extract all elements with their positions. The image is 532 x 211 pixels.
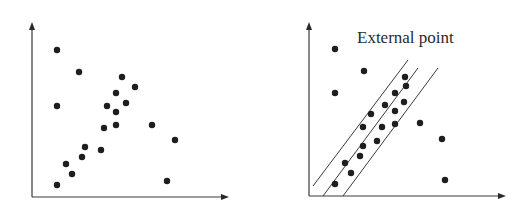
data-point [439,136,445,142]
data-point [98,147,104,153]
y-axis-arrow-icon [306,22,312,30]
scatter-plot-with-fit-band: External point [306,22,506,199]
data-point [417,120,423,126]
data-point [54,182,60,188]
data-point [379,124,385,130]
data-point [149,122,155,128]
x-axis-arrow-icon [221,194,229,200]
data-point [63,161,69,167]
data-point [164,178,170,184]
external-point-label: External point [357,28,454,47]
data-point [348,170,354,176]
data-point [361,68,367,74]
data-point [79,154,85,160]
data-point [113,122,119,128]
data-point [342,160,348,166]
data-point [101,125,107,131]
data-point [382,102,388,108]
scatter-figure: External point [0,0,532,211]
y-axis-arrow-icon [29,22,35,30]
data-point [119,74,125,80]
data-point [113,109,119,115]
data-point [392,90,398,96]
data-point [54,103,60,109]
data-point [104,103,110,109]
data-point [357,153,363,159]
data-point [172,137,178,143]
data-point [401,99,407,105]
data-point [368,111,374,117]
data-point [402,74,408,80]
data-point [123,100,129,106]
data-point [113,90,119,96]
x-axis-arrow-icon [498,193,506,199]
scatter-plot-raw [29,22,229,200]
data-point [332,181,338,187]
data-point [442,177,448,183]
data-point [374,138,380,144]
data-point [360,143,366,149]
data-point [360,124,366,130]
lower-band-line [343,68,438,196]
data-point [132,84,138,90]
data-point [332,46,338,52]
data-point [76,69,82,75]
data-point [392,121,398,127]
data-point [54,47,60,53]
data-point [332,90,338,96]
data-point [82,144,88,150]
data-point [403,83,409,89]
data-point [69,171,75,177]
data-point [392,108,398,114]
